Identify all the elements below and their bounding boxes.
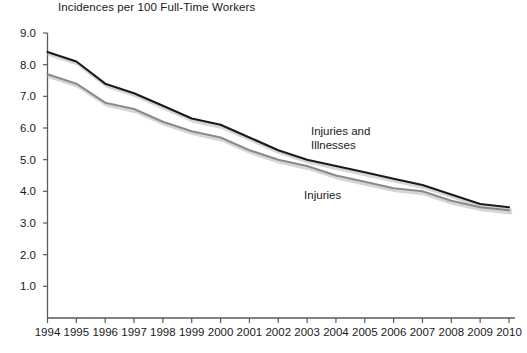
y-axis-tick-label: 2.0 [2, 249, 36, 261]
y-axis-tick-label: 7.0 [2, 90, 36, 102]
y-axis-tick-label: 4.0 [2, 185, 36, 197]
y-axis-tick-label: 9.0 [2, 27, 36, 39]
y-axis-tick-label: 3.0 [2, 217, 36, 229]
series-annotation-injuries-and-illnesses: Injuries and Illnesses [311, 124, 370, 152]
y-axis-tick-label: 8.0 [2, 59, 36, 71]
y-axis-tick-label: 5.0 [2, 154, 36, 166]
series-shadow-0 [49, 55, 511, 210]
x-axis-tick-label: 2010 [489, 326, 527, 338]
series-annotation-injuries: Injuries [304, 188, 341, 202]
y-axis-tick-label: 1.0 [2, 280, 36, 292]
series-line-0 [48, 52, 510, 207]
y-axis-tick-label: 6.0 [2, 122, 36, 134]
